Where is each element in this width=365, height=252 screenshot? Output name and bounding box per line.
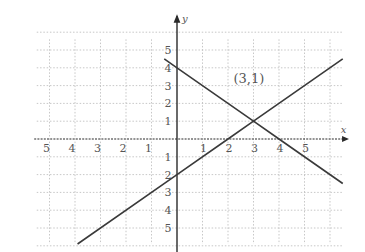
y-axis-label: y bbox=[181, 13, 188, 24]
x-tick-label: 4 bbox=[69, 142, 76, 155]
y-tick-label: 4 bbox=[165, 204, 172, 217]
x-axis-label: x bbox=[341, 124, 347, 135]
x-tick-label: 5 bbox=[43, 142, 50, 155]
x-tick-label: 2 bbox=[226, 142, 233, 155]
x-tick-label: 2 bbox=[120, 142, 127, 155]
x-tick-label: 3 bbox=[251, 142, 258, 155]
x-tick-label: 4 bbox=[277, 142, 284, 155]
y-tick-label: 3 bbox=[165, 80, 172, 93]
y-tick-label: 3 bbox=[165, 186, 172, 199]
y-tick-label: 5 bbox=[165, 222, 172, 235]
intersection-label: (3,1) bbox=[234, 71, 265, 86]
y-tick-label: 1 bbox=[165, 115, 172, 128]
y-tick-label: 1 bbox=[165, 151, 172, 164]
y-tick-label: 5 bbox=[165, 44, 172, 57]
coordinate-plane: 54321123455432112345 x y (3,1) bbox=[0, 0, 365, 252]
annotations: (3,1) bbox=[234, 71, 265, 86]
x-tick-label: 1 bbox=[145, 142, 152, 155]
y-tick-label: 2 bbox=[165, 97, 172, 110]
x-tick-label: 3 bbox=[94, 142, 101, 155]
x-tick-label: 5 bbox=[302, 142, 309, 155]
x-tick-label: 1 bbox=[200, 142, 207, 155]
